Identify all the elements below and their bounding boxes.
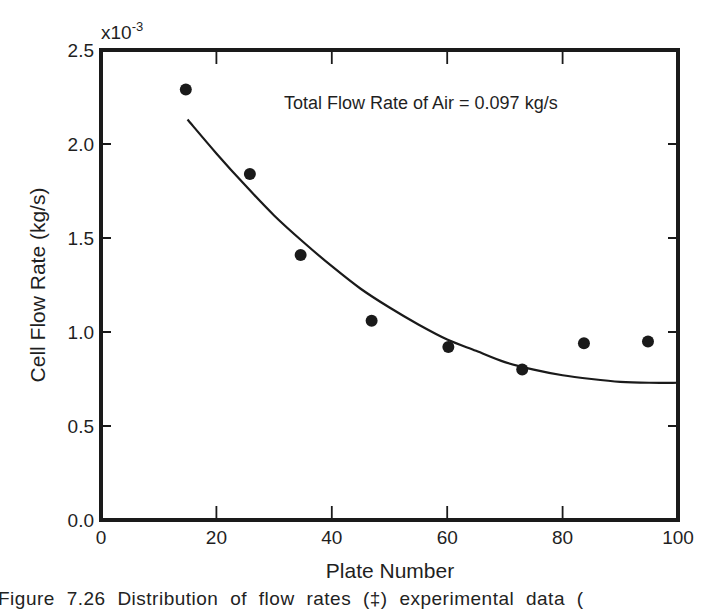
x-axis-ticks <box>216 50 562 520</box>
y-axis-title: Cell Flow Rate (kg/s) <box>26 188 49 383</box>
y-multiplier-label: x10-3 <box>101 19 143 43</box>
x-tick-label: 0 <box>96 527 107 548</box>
x-tick-label: 80 <box>552 527 573 548</box>
x-axis-title: Plate Number <box>326 559 454 582</box>
x-tick-label: 40 <box>321 527 342 548</box>
data-point <box>295 249 307 261</box>
y-tick-label: 0.5 <box>68 416 94 437</box>
data-point <box>578 337 590 349</box>
x-tick-label: 60 <box>437 527 458 548</box>
data-point <box>642 335 654 347</box>
data-point <box>244 168 256 180</box>
data-point <box>442 341 454 353</box>
y-tick-label: 2.0 <box>68 134 94 155</box>
y-tick-label: 2.5 <box>68 40 94 61</box>
data-point <box>366 315 378 327</box>
y-axis-ticks <box>101 144 678 426</box>
data-point <box>516 364 528 376</box>
y-tick-label: 1.5 <box>68 228 94 249</box>
data-point <box>180 83 192 95</box>
figure-caption: Figure 7.26 Distribution of flow rates (… <box>0 588 719 609</box>
chart-annotation: Total Flow Rate of Air = 0.097 kg/s <box>284 93 558 113</box>
data-points <box>180 83 654 375</box>
y-axis-tick-labels: 0.00.51.01.52.02.5 <box>68 40 94 531</box>
chart-canvas: 0.00.51.01.52.02.5 020406080100 x10-3 To… <box>0 0 719 609</box>
x-axis-tick-labels: 020406080100 <box>96 527 694 548</box>
x-tick-label: 100 <box>662 527 694 548</box>
x-tick-label: 20 <box>206 527 227 548</box>
y-multiplier-exponent: -3 <box>132 19 144 34</box>
fit-curve-line <box>188 120 678 383</box>
y-tick-label: 0.0 <box>68 510 94 531</box>
y-tick-label: 1.0 <box>68 322 94 343</box>
